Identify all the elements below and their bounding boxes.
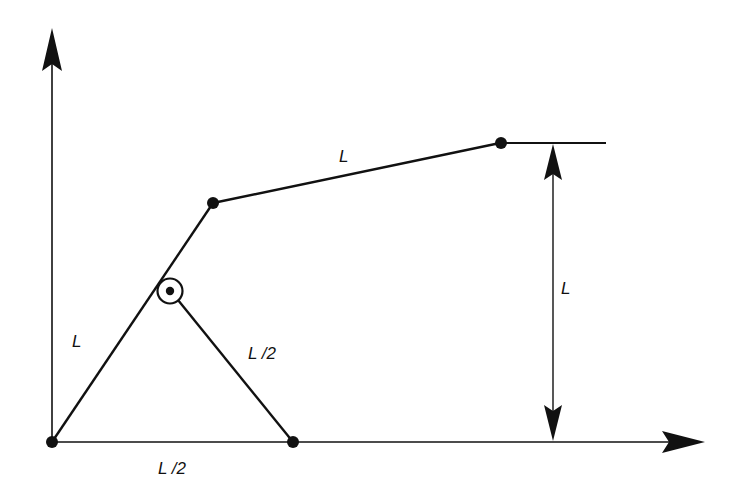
- linkage-diagram: L L L L /2 L /2: [0, 0, 740, 495]
- elbow-joint: [207, 197, 219, 209]
- link-upper: [213, 143, 500, 203]
- label-lower-link: L: [72, 332, 81, 351]
- link-lower: [52, 203, 213, 442]
- label-upper-link: L: [339, 147, 348, 166]
- label-height-dimension: L: [561, 279, 570, 298]
- x-axis: [52, 431, 705, 453]
- height-dimension: [544, 144, 562, 441]
- y-axis: [42, 28, 62, 442]
- pivot-joint-icon: [158, 279, 183, 304]
- end-effector-joint: [495, 137, 507, 149]
- label-support-link: L /2: [248, 344, 277, 363]
- link-support: [178, 300, 293, 442]
- ground-joint: [287, 436, 299, 448]
- origin-joint: [46, 436, 58, 448]
- label-base-distance: L /2: [158, 459, 187, 478]
